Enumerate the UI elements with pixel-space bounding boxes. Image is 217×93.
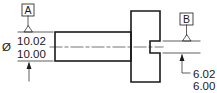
diameter-symbol: Ø xyxy=(2,41,11,53)
datum-a-label: A xyxy=(24,4,31,16)
shaft-diameter-lower: 10.00 xyxy=(17,48,46,60)
datum-b-label: B xyxy=(183,13,190,25)
shaft-diameter-upper: 10.02 xyxy=(17,35,46,47)
flange-outline xyxy=(131,11,160,82)
slot-width-lower: 6.00 xyxy=(193,80,215,92)
datum-b-triangle xyxy=(183,35,191,41)
arrowhead-up-b xyxy=(180,54,185,61)
datum-a-triangle xyxy=(24,26,32,32)
shaft-outline xyxy=(55,32,131,61)
slot-width-upper: 6.02 xyxy=(193,68,215,80)
arrowhead-up-a xyxy=(27,62,32,69)
part-drawing: A B Ø 10.02 10.00 6.02 6.00 xyxy=(0,0,217,93)
